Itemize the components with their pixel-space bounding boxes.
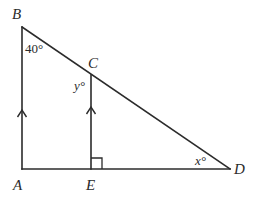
- angle-label-b: 40°: [25, 42, 43, 55]
- point-label-e: E: [86, 178, 95, 193]
- point-label-d: D: [234, 162, 245, 177]
- geometry-diagram: [0, 0, 254, 197]
- point-label-c: C: [88, 56, 98, 71]
- angle-label-d: x°: [195, 154, 206, 167]
- right-angle-marker-icon: [91, 158, 102, 169]
- angle-label-c: y°: [74, 79, 85, 92]
- point-label-b: B: [12, 7, 21, 22]
- segment-bd: [22, 27, 230, 169]
- point-label-a: A: [13, 178, 22, 193]
